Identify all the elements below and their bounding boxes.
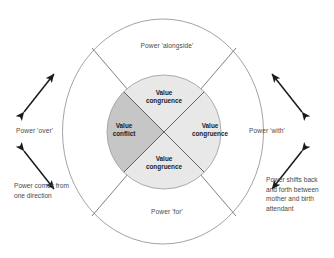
right-upper-arrow xyxy=(272,74,302,112)
quadrant-label-left-line1: Value xyxy=(101,122,147,130)
quadrant-label-bottom: Value congruence xyxy=(134,155,194,171)
note-right: Power shifts back and forth between moth… xyxy=(266,175,330,213)
quadrant-label-right-line2: congruence xyxy=(180,130,240,138)
quadrant-label-right-line1: Value xyxy=(180,122,240,130)
ring-label-right: Power 'with' xyxy=(249,127,285,135)
quadrant-label-left: Value conflict xyxy=(101,122,147,138)
quadrant-label-bottom-line2: congruence xyxy=(134,163,194,171)
quadrant-label-top-line2: congruence xyxy=(134,97,194,105)
quadrant-label-top: Value congruence xyxy=(134,89,194,105)
quadrant-label-bottom-line1: Value xyxy=(134,155,194,163)
ring-label-left: Power 'over' xyxy=(16,127,53,135)
note-left: Power comes from one direction xyxy=(14,181,72,200)
ring-label-top: Power 'alongside' xyxy=(0,42,334,50)
quadrant-label-top-line1: Value xyxy=(134,89,194,97)
quadrant-label-right: Value congruence xyxy=(180,122,240,138)
quadrant-label-left-line2: conflict xyxy=(101,130,147,138)
power-relations-diagram: Power 'alongside' Power 'over' Power 'wi… xyxy=(0,0,334,258)
left-upper-arrow xyxy=(24,74,54,112)
